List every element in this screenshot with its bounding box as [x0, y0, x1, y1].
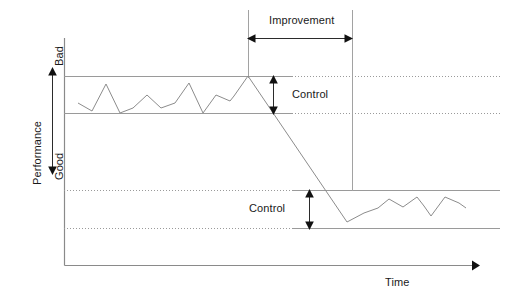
improvement-label: Improvement [269, 15, 334, 26]
series-phase-3-line [347, 197, 466, 222]
improvement-dimension-arrow [247, 34, 353, 42]
x-axis-arrow-icon [472, 261, 480, 271]
axes-group [65, 38, 481, 271]
x-axis-title: Time [385, 277, 409, 288]
upper-control-dimension-arrow [258, 75, 288, 115]
lower-control-label: Control [249, 203, 285, 214]
series-phase-1-line [78, 76, 248, 113]
upper-control-label: Control [292, 89, 328, 100]
y-axis-title: Performance [32, 121, 43, 185]
performance-arrow-up-icon [48, 67, 57, 76]
y-axis-top-label: Bad [54, 46, 65, 66]
control-chart-figure: Performance Bad Good Improvement Control… [0, 0, 515, 298]
y-axis-bottom-label: Good [54, 153, 65, 180]
chart-canvas [0, 0, 515, 298]
performance-series [78, 76, 466, 222]
lower-control-dimension-arrow [294, 189, 324, 230]
upper-control-band [64, 77, 500, 114]
improvement-arrow-right-icon [345, 34, 354, 42]
